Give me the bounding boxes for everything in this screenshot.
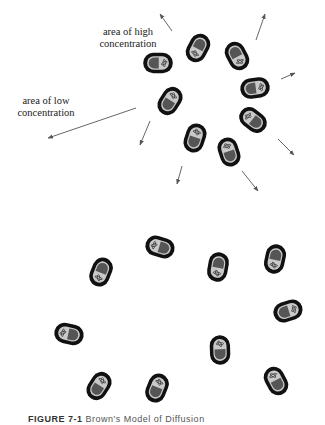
cluster-high-concentration <box>143 30 271 169</box>
bacterium-cell <box>260 363 292 399</box>
diffusion-arrow <box>48 108 136 138</box>
caption-prefix: FIGURE 7-1 <box>28 414 83 424</box>
bacterium-cell <box>181 121 209 155</box>
diffusion-arrow <box>177 166 182 184</box>
bacterium-cell <box>271 297 305 325</box>
diffusion-arrow <box>278 139 294 155</box>
diffusion-arrow <box>160 14 172 31</box>
diffusion-arrow <box>242 171 258 191</box>
diffusion-arrow <box>256 14 265 40</box>
bacterium-cell <box>221 38 253 74</box>
cluster-low-concentration <box>52 233 305 406</box>
bacterium-cell <box>239 76 271 100</box>
diffusion-diagram <box>0 0 325 425</box>
bacterium-cell <box>154 83 187 119</box>
caption-text: Brown's Model of Diffusion <box>86 414 205 424</box>
bacterium-cell <box>215 135 243 169</box>
bacterium-cell <box>235 103 271 137</box>
bacterium-cell <box>182 30 214 66</box>
figure-caption: FIGURE 7-1 Brown's Model of Diffusion <box>28 414 205 424</box>
bacterium-cell <box>142 370 172 405</box>
diffusion-arrow <box>281 73 295 79</box>
diffusion-arrow <box>140 121 150 145</box>
bacterium-cell <box>143 53 173 73</box>
bacterium-cell <box>209 335 230 365</box>
bacterium-cell <box>205 251 230 284</box>
bacterium-cell <box>143 233 177 261</box>
bacterium-cell <box>52 321 85 347</box>
bacterium-cell <box>262 242 288 275</box>
bacterium-cell <box>83 368 116 404</box>
bacterium-cell <box>86 254 116 289</box>
